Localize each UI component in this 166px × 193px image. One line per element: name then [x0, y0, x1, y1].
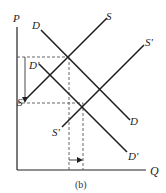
- curve-label-S: S: [106, 11, 112, 22]
- price-drop-label: S: [17, 97, 23, 108]
- curve-label-D-prime-top: D': [29, 60, 39, 71]
- curve-label-S-prime-bottom: S': [52, 127, 60, 138]
- curve-label-S-prime: S': [145, 37, 153, 48]
- diagram-caption: (b): [75, 180, 87, 190]
- curve-label-D-prime-bottom: D': [128, 151, 138, 162]
- diagram-canvas: [0, 0, 166, 193]
- y-axis-label: P: [13, 13, 20, 24]
- curve-label-D: D: [32, 20, 40, 31]
- supply-demand-diagram: P Q D S S' D' D D' S' S (b): [0, 0, 166, 193]
- curve-label-D-right: D: [130, 116, 138, 127]
- x-axis-label: Q: [150, 165, 159, 177]
- demand-curve-D: [41, 30, 130, 120]
- quantity-arrow-head-icon: [77, 157, 83, 163]
